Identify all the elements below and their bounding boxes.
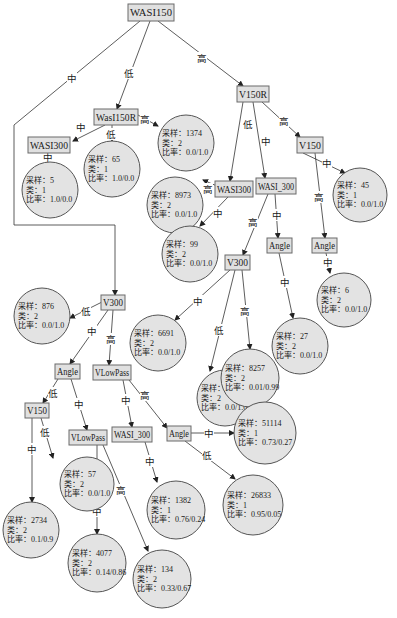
decision-node: Angle (267, 238, 292, 253)
decision-node-label: Angle (314, 240, 335, 251)
edge-label: 中 (261, 136, 271, 147)
leaf-node: 采样：27类：2比率：0.0/1.0 (272, 318, 328, 374)
decision-node-label: Angle (169, 428, 189, 439)
decision-node: Angle (167, 426, 191, 441)
edge-label: 高 (140, 114, 150, 125)
leaf-ratio: 比率：0.0/1.0 (162, 147, 208, 157)
tree-edge: 高 (129, 380, 167, 428)
tree-edge: 低 (70, 302, 102, 318)
decision-node-label: V150 (27, 405, 47, 416)
leaf-samples: 采样：26833 (227, 490, 271, 500)
tree-edge: 中 (200, 197, 228, 226)
decision-node-label: Angle (57, 366, 78, 377)
decision-node-label: V300 (103, 297, 123, 308)
leaf-node: 采样：45类：1比率：0.0/1.0 (333, 168, 387, 222)
leaf-class: 类：1 (88, 164, 108, 174)
leaf-class: 类：2 (72, 558, 92, 568)
leaf-class: 类：1 (26, 185, 46, 195)
tree-edge: 低 (117, 21, 150, 109)
leaf-samples: 采样：1374 (162, 128, 202, 138)
edge-label: 低 (124, 68, 134, 79)
decision-tree-diagram: 中低高中低高中低中高中高高中高中中中中低高低中高低中中高低中中中高中低 采样：1… (0, 0, 397, 618)
leaf-node: 采样：65类：1比率：1.0/0.0 (84, 141, 140, 197)
leaf-class: 类：1 (238, 428, 258, 438)
leaf-class: 类：1 (151, 505, 171, 515)
leaf-samples: 采样：134 (137, 564, 173, 574)
leaf-ratio: 比率：0.33/0.67 (137, 583, 191, 593)
leaf-node: 采样：1374类：2比率：0.0/1.0 (158, 115, 214, 171)
tree-edge: 低 (230, 102, 253, 181)
leaf-class: 类：2 (276, 341, 296, 351)
leaf-ratio: 比率：0.95/0.05 (227, 509, 281, 519)
edge-label: 中 (193, 296, 203, 307)
decision-node: WASI300 (215, 181, 253, 197)
leaf-samples: 采样：6691 (134, 328, 174, 338)
leaf-node: 采样：4077类：2比率：0.14/0.86 (68, 534, 126, 592)
edge-label: 低 (214, 325, 224, 336)
leaf-node: 采样：57类：2比率：0.0/1.0 (60, 457, 114, 511)
tree-edge: 低 (185, 441, 235, 479)
edge-label: 高 (140, 390, 150, 401)
tree-edge: 高 (138, 113, 158, 126)
edge-label: 中 (145, 456, 155, 467)
edge-label: 中 (280, 277, 290, 288)
leaf-ratio: 比率：1.0/0.0 (88, 173, 134, 183)
tree-edge: 中 (27, 418, 37, 502)
tree-edge: 中 (191, 427, 234, 439)
leaf-class: 类：2 (151, 200, 171, 210)
decision-node: VLowPass (69, 430, 107, 445)
leaf-class: 类：2 (321, 295, 341, 305)
leaf-samples: 采样：4077 (72, 548, 112, 558)
leaf-samples: 采样：5 (26, 175, 54, 185)
tree-edge: 中 (323, 253, 333, 273)
edge-line (117, 21, 150, 109)
edge-label: 中 (67, 73, 77, 84)
leaf-ratio: 比率：0.0/1.0 (321, 304, 367, 314)
leaf-node: 采样：99类：2比率：0.0/1.0 (162, 226, 218, 282)
decision-node-label: WASI150 (130, 7, 172, 18)
leaf-node: 采样：134类：2比率：0.33/0.67 (133, 550, 191, 608)
decision-node: WASI_300 (256, 178, 296, 194)
tree-edge: 中 (121, 380, 132, 427)
edge-label: 高 (240, 306, 250, 317)
edge-label: 低 (202, 450, 212, 461)
leaf-node: 采样：8973类：2比率：0.0/1.0 (147, 177, 203, 233)
decision-node: WASI_300 (112, 427, 152, 442)
leaf-ratio: 比率：0.0/1.0 (18, 320, 64, 330)
leaf-samples: 采样：65 (88, 154, 120, 164)
leaf-samples: 采样：2734 (7, 515, 47, 525)
decision-node: WasI150R (94, 109, 138, 125)
leaf-samples: 采样：1382 (151, 495, 191, 505)
tree-edge: 中 (70, 310, 108, 364)
leaf-ratio: 比率：0.0/1.0 (134, 347, 180, 357)
leaf-ratio: 比率：0.0/1.0 (166, 258, 212, 268)
edge-label: 高 (203, 184, 213, 195)
leaf-node: 采样：6类：2比率：0.0/1.0 (317, 273, 371, 327)
decision-node-label: V150 (299, 140, 321, 151)
leaf-ratio: 比率：0.0/1.0 (151, 209, 197, 219)
edge-label: 高 (314, 192, 324, 203)
edge-label: 低 (106, 129, 116, 140)
edge-line (129, 380, 167, 428)
tree-edge: 中 (303, 153, 345, 173)
decision-node-label: Angle (269, 240, 290, 251)
edge-label: 高 (248, 217, 258, 228)
decision-node: VLowPass (93, 365, 131, 380)
leaf-class: 类：1 (337, 190, 357, 200)
leaf-samples: 采样：57 (64, 469, 96, 479)
tree-edge: 高 (158, 21, 243, 86)
leaf-samples: 采样：45 (337, 180, 369, 190)
decision-node: WASI300 (28, 137, 70, 153)
leaf-samples: 采样：51114 (238, 418, 281, 428)
edge-label: 低 (48, 388, 58, 399)
decision-node-label: WASI300 (217, 184, 251, 195)
tree-edge: 高 (243, 194, 268, 255)
leaf-class: 类：2 (18, 311, 38, 321)
leaf-samples: 采样：27 (276, 331, 308, 341)
decision-node: V300 (101, 295, 125, 310)
edge-label: 中 (323, 257, 333, 268)
leaf-ratio: 比率：0.76/0.24 (151, 514, 205, 524)
edge-line (230, 102, 243, 181)
leaf-class: 类：2 (225, 373, 245, 383)
edge-label: 中 (74, 399, 84, 410)
